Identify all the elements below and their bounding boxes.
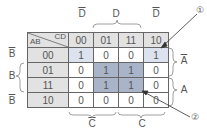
- arrow-2: [144, 92, 190, 117]
- braces-and-arrows: [0, 0, 207, 134]
- arrow-2-head: [142, 91, 148, 95]
- arrow-1: [163, 14, 197, 46]
- d-brace: [93, 20, 141, 28]
